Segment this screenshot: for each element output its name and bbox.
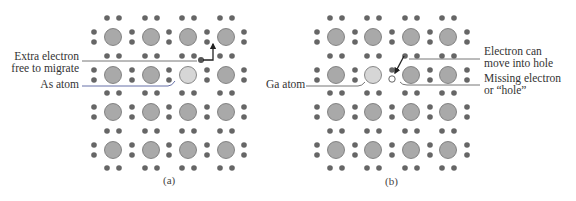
valence-electron: [327, 15, 333, 21]
host-atom: [105, 142, 122, 159]
label-line: Extra electron: [0, 50, 79, 62]
valence-electron: [376, 90, 382, 96]
valence-electron: [241, 39, 247, 45]
valence-electron: [364, 15, 370, 21]
valence-electron: [204, 29, 210, 35]
host-atom: [218, 29, 235, 46]
host-atom: [143, 29, 160, 46]
valence-electron: [241, 142, 247, 148]
valence-electron: [439, 128, 445, 134]
valence-electron: [129, 152, 135, 158]
host-atom: [365, 104, 382, 121]
valence-electron: [427, 114, 433, 120]
valence-electron: [241, 29, 247, 35]
valence-electron: [439, 15, 445, 21]
valence-electron: [464, 104, 470, 110]
host-atom: [105, 67, 122, 84]
valence-electron: [414, 53, 420, 59]
valence-electron: [191, 165, 197, 171]
valence-electron: [352, 142, 358, 148]
valence-electron: [464, 142, 470, 148]
valence-electron: [464, 29, 470, 35]
valence-electron: [352, 67, 358, 73]
valence-electron: [352, 114, 358, 120]
host-atom: [440, 67, 457, 84]
label-line: Ga atom: [266, 78, 305, 90]
valence-electron: [339, 90, 345, 96]
host-atom: [403, 29, 420, 46]
host-atom: [403, 142, 420, 159]
valence-electron: [204, 152, 210, 158]
valence-electron: [217, 165, 223, 171]
valence-electron: [439, 53, 445, 59]
valence-electron: [451, 165, 457, 171]
hole-marker: [389, 76, 395, 82]
valence-electron: [389, 152, 395, 158]
valence-electron: [414, 90, 420, 96]
host-atom: [365, 29, 382, 46]
valence-electron: [166, 39, 172, 45]
valence-electron: [402, 128, 408, 134]
host-atom: [403, 67, 420, 84]
valence-electron: [327, 165, 333, 171]
valence-electron: [104, 128, 110, 134]
valence-electron: [204, 67, 210, 73]
doping-diagram: [0, 0, 576, 201]
valence-electron: [229, 90, 235, 96]
valence-electron: [142, 90, 148, 96]
valence-electron: [451, 15, 457, 21]
valence-electron: [142, 128, 148, 134]
valence-electron: [364, 53, 370, 59]
valence-electron: [352, 29, 358, 35]
valence-electron: [229, 15, 235, 21]
valence-electron: [364, 165, 370, 171]
valence-electron: [204, 114, 210, 120]
valence-electron: [204, 39, 210, 45]
valence-electron: [142, 165, 148, 171]
valence-electron: [129, 67, 135, 73]
valence-electron: [91, 152, 97, 158]
valence-electron: [364, 90, 370, 96]
host-atom: [328, 67, 345, 84]
label-ga-atom: Ga atom: [266, 78, 305, 90]
valence-electron: [352, 104, 358, 110]
label-line: Electron can: [484, 45, 553, 57]
caption-a: (a): [163, 174, 175, 186]
label-line: As atom: [0, 78, 79, 90]
host-atom: [440, 142, 457, 159]
valence-electron: [154, 90, 160, 96]
valence-electron: [314, 142, 320, 148]
valence-electron: [204, 104, 210, 110]
valence-electron: [327, 90, 333, 96]
valence-electron: [241, 104, 247, 110]
valence-electron: [314, 29, 320, 35]
valence-electron: [166, 77, 172, 83]
valence-electron: [464, 67, 470, 73]
valence-electron: [91, 142, 97, 148]
hole-arrow: [395, 56, 404, 73]
host-atom: [105, 104, 122, 121]
valence-electron: [339, 53, 345, 59]
label-line: or “hole”: [484, 84, 561, 96]
valence-electron: [104, 165, 110, 171]
valence-electron: [129, 29, 135, 35]
valence-electron: [204, 77, 210, 83]
host-atom: [180, 142, 197, 159]
host-atom: [143, 67, 160, 84]
valence-electron: [104, 90, 110, 96]
valence-electron: [166, 104, 172, 110]
valence-electron: [191, 90, 197, 96]
valence-electron: [464, 114, 470, 120]
valence-electron: [91, 67, 97, 73]
valence-electron: [241, 67, 247, 73]
label-as-atom: As atom: [0, 78, 79, 90]
valence-electron: [154, 15, 160, 21]
valence-electron: [129, 77, 135, 83]
valence-electron: [314, 152, 320, 158]
valence-electron: [427, 39, 433, 45]
valence-electron: [427, 104, 433, 110]
valence-electron: [427, 142, 433, 148]
label-line: Missing electron: [484, 72, 561, 84]
label-line: move into hole: [484, 57, 553, 69]
valence-electron: [116, 128, 122, 134]
